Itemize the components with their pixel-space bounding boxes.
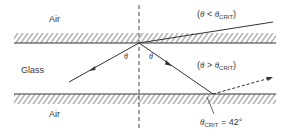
case-less-than-critical-label: (θ < θCRIT) <box>197 9 236 20</box>
incident-angle-label: θ <box>124 52 128 62</box>
reflected-arrow-icon <box>165 60 172 66</box>
second-reflected-ray <box>213 78 270 94</box>
incident-arrow-icon <box>89 66 96 71</box>
reflected-angle-label: θ <box>149 52 153 62</box>
incident-ray <box>69 43 139 82</box>
top-glass-boundary <box>14 33 276 43</box>
bottom-glass-boundary <box>14 94 276 104</box>
critical-angle-label: θCRIT = 42° <box>200 117 242 128</box>
second-reflected-arrow-icon <box>266 77 273 81</box>
region-label-air-bottom: Air <box>49 109 60 119</box>
region-label-glass: Glass <box>21 65 44 75</box>
case-greater-than-critical-label: (θ > θCRIT) <box>197 60 236 71</box>
region-label-air-top: Air <box>49 14 60 24</box>
